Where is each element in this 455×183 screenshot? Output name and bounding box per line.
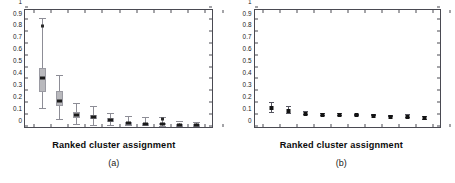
median-marker bbox=[194, 124, 199, 127]
y-tick-label: 0 bbox=[18, 117, 22, 123]
scatter-point-group bbox=[386, 8, 395, 127]
data-point-marker bbox=[389, 115, 393, 119]
boxplot-group bbox=[158, 8, 167, 127]
figure-container: 00.10.20.30.40.50.60.70.80.91 Ranked clu… bbox=[0, 0, 455, 183]
whisker-cap bbox=[39, 18, 46, 19]
boxplot-group bbox=[124, 8, 133, 127]
data-point-marker bbox=[321, 113, 325, 117]
whisker-cap bbox=[73, 124, 80, 125]
median-marker bbox=[91, 115, 96, 118]
whisker-cap bbox=[176, 121, 183, 122]
y-tick-mark bbox=[255, 7, 258, 8]
y-tick-label: 0.4 bbox=[243, 70, 252, 76]
median-marker bbox=[177, 123, 182, 126]
scatter-point-group bbox=[403, 8, 412, 127]
whisker-cap bbox=[39, 108, 46, 109]
x-axis-label-a: Ranked cluster assignment bbox=[0, 140, 228, 150]
box-iqr bbox=[56, 91, 63, 106]
scatter-point-group bbox=[335, 8, 344, 127]
data-point-marker bbox=[372, 114, 376, 118]
outlier-marker bbox=[41, 25, 44, 28]
plot-area-a: 00.10.20.30.40.50.60.70.80.91 bbox=[24, 9, 213, 128]
whisker-cap bbox=[125, 125, 132, 126]
scatter-point-group bbox=[267, 8, 276, 127]
error-bar-cap bbox=[286, 106, 291, 107]
y-tick-label: 0.4 bbox=[13, 70, 22, 76]
panel-b: 00.10.20.30.40.50.60.70.80.91 Ranked clu… bbox=[228, 0, 455, 183]
box-iqr bbox=[39, 68, 46, 92]
y-tick-label: 0 bbox=[248, 117, 252, 123]
median-marker bbox=[74, 114, 79, 117]
scatter-point-group bbox=[301, 8, 310, 127]
data-point-marker bbox=[270, 106, 274, 110]
y-tick-mark bbox=[209, 7, 212, 8]
data-point-marker bbox=[287, 109, 291, 113]
subfigure-caption-a: (a) bbox=[0, 158, 228, 168]
y-tick-label: 0.5 bbox=[243, 58, 252, 64]
data-point-marker bbox=[355, 113, 359, 117]
median-marker bbox=[126, 122, 131, 125]
x-axis-label-b: Ranked cluster assignment bbox=[228, 140, 455, 150]
scatter-point-group bbox=[352, 8, 361, 127]
panel-a: 00.10.20.30.40.50.60.70.80.91 Ranked clu… bbox=[0, 0, 228, 183]
y-tick-mark bbox=[25, 7, 28, 8]
median-marker bbox=[108, 118, 113, 121]
scatter-series-b bbox=[255, 10, 440, 127]
median-marker bbox=[143, 122, 148, 125]
y-tick-label: 0.7 bbox=[13, 34, 22, 40]
y-tick-label: 0.9 bbox=[13, 10, 22, 16]
y-tick-label: 0.2 bbox=[243, 94, 252, 100]
y-tick-label: 0.6 bbox=[243, 46, 252, 52]
y-tick-label: 0.3 bbox=[243, 82, 252, 88]
subfigure-caption-b: (b) bbox=[228, 158, 455, 168]
boxplot-series-a bbox=[25, 10, 212, 127]
boxplot-group bbox=[38, 8, 47, 127]
boxplot-group bbox=[192, 8, 201, 127]
outlier-marker bbox=[161, 117, 164, 120]
y-tick-label: 1 bbox=[248, 0, 252, 5]
y-tick-label: 0.9 bbox=[243, 10, 252, 16]
y-tick-label: 0.6 bbox=[13, 46, 22, 52]
y-tick-label: 0.2 bbox=[13, 94, 22, 100]
boxplot-group bbox=[106, 8, 115, 127]
y-tick-label: 0.1 bbox=[13, 106, 22, 112]
boxplot-group bbox=[72, 8, 81, 127]
y-tick-label: 0.1 bbox=[243, 106, 252, 112]
data-point-marker bbox=[304, 112, 308, 116]
whisker-cap bbox=[56, 75, 63, 76]
median-marker bbox=[57, 99, 62, 102]
boxplot-group bbox=[175, 8, 184, 127]
y-tick-label: 0.5 bbox=[13, 58, 22, 64]
y-tick-label: 0.8 bbox=[243, 22, 252, 28]
y-tick-label: 0.7 bbox=[243, 34, 252, 40]
whisker-cap bbox=[107, 125, 114, 126]
data-point-marker bbox=[423, 116, 427, 120]
x-tick-mark bbox=[450, 124, 451, 127]
whisker-cap bbox=[73, 103, 80, 104]
data-point-marker bbox=[338, 113, 342, 117]
error-bar-cap bbox=[269, 112, 274, 113]
boxplot-group bbox=[89, 8, 98, 127]
whisker-line bbox=[42, 19, 43, 108]
whisker-cap bbox=[107, 113, 114, 114]
whisker-cap bbox=[90, 125, 97, 126]
median-marker bbox=[40, 77, 45, 80]
x-tick-mark bbox=[450, 10, 451, 13]
y-tick-mark bbox=[437, 7, 440, 8]
whisker-cap bbox=[125, 116, 132, 117]
whisker-cap bbox=[142, 125, 149, 126]
whisker-cap bbox=[56, 119, 63, 120]
y-tick-label: 0.8 bbox=[13, 22, 22, 28]
scatter-point-group bbox=[284, 8, 293, 127]
scatter-point-group bbox=[318, 8, 327, 127]
plot-area-b: 00.10.20.30.40.50.60.70.80.91 bbox=[254, 9, 441, 128]
boxplot-group bbox=[141, 8, 150, 127]
x-tick-mark bbox=[222, 124, 223, 127]
y-tick-label: 0.3 bbox=[13, 82, 22, 88]
y-tick-label: 1 bbox=[18, 0, 22, 5]
scatter-point-group bbox=[369, 8, 378, 127]
whisker-cap bbox=[90, 106, 97, 107]
boxplot-group bbox=[55, 8, 64, 127]
median-marker bbox=[160, 123, 165, 126]
data-point-marker bbox=[406, 115, 410, 119]
